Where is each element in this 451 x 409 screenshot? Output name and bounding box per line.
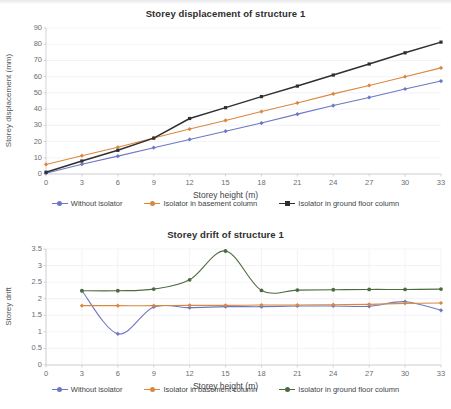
data-point-marker: [295, 288, 299, 292]
data-point-marker: [188, 127, 192, 131]
data-point-marker: [80, 304, 84, 308]
legend-item-0[interactable]: Without isolator: [52, 199, 123, 208]
x-tick-label: 15: [214, 369, 238, 378]
x-tick-label: 9: [142, 369, 166, 378]
x-tick-label: 30: [393, 178, 417, 187]
y-tick-label: 40: [16, 104, 42, 113]
x-tick-label: 18: [249, 178, 273, 187]
data-point-marker: [188, 137, 192, 141]
data-point-marker: [295, 112, 299, 116]
legend-item-1[interactable]: Isolator in basement column: [144, 199, 257, 208]
data-point-marker: [439, 287, 443, 291]
data-point-marker: [44, 162, 48, 166]
data-point-marker: [80, 289, 84, 293]
data-point-marker: [403, 288, 407, 292]
x-tick-label: 27: [357, 369, 381, 378]
x-tick-label: 30: [393, 369, 417, 378]
y-tick-label: 3.5: [16, 244, 42, 253]
data-point-marker: [367, 288, 371, 292]
x-tick-label: 6: [106, 178, 130, 187]
x-tick-label: 18: [249, 369, 273, 378]
displacement-plot-svg: [0, 22, 451, 192]
data-point-marker: [260, 289, 264, 293]
y-tick-label: 2.5: [16, 277, 42, 286]
data-point-marker: [332, 73, 335, 76]
data-point-marker: [439, 66, 443, 70]
x-tick-label: 33: [429, 178, 451, 187]
x-tick-label: 9: [142, 178, 166, 187]
legend-swatch-icon: [52, 200, 68, 207]
data-point-marker: [331, 103, 335, 107]
y-tick-label: 1: [16, 327, 42, 336]
data-point-marker: [80, 154, 84, 158]
x-tick-label: 12: [178, 178, 202, 187]
legend-label: Without isolator: [71, 385, 123, 394]
storey-drift-chart: Storey drift of structure 1 Storey drift…: [0, 225, 451, 409]
figure-page: Storey displacement of structure 1 Store…: [0, 0, 451, 409]
data-point-marker: [152, 146, 156, 150]
data-point-marker: [439, 308, 443, 312]
data-point-marker: [439, 79, 443, 83]
displacement-chart-title: Storey displacement of structure 1: [0, 4, 451, 22]
legend-label: Isolator in ground floor column: [298, 199, 399, 208]
y-tick-label: 10: [16, 153, 42, 162]
y-tick-label: 2: [16, 294, 42, 303]
legend-item-1[interactable]: Isolator in basement column: [144, 385, 257, 394]
data-point-marker: [368, 62, 371, 65]
data-point-marker: [223, 118, 227, 122]
y-tick-label: 1.5: [16, 310, 42, 319]
data-point-marker: [331, 288, 335, 292]
data-point-marker: [224, 249, 228, 253]
data-point-marker: [116, 149, 119, 152]
x-tick-label: 3: [70, 369, 94, 378]
legend-label: Isolator in ground floor column: [298, 385, 399, 394]
storey-displacement-chart: Storey displacement of structure 1 Store…: [0, 4, 451, 222]
data-point-marker: [403, 75, 407, 79]
legend-swatch-icon: [144, 200, 160, 207]
x-tick-label: 24: [321, 369, 345, 378]
data-point-marker: [331, 92, 335, 96]
y-tick-label: 90: [16, 23, 42, 32]
x-tick-label: 6: [106, 369, 130, 378]
data-point-marker: [44, 171, 47, 174]
data-point-marker: [296, 84, 299, 87]
y-tick-label: 70: [16, 55, 42, 64]
legend-label: Isolator in basement column: [163, 385, 257, 394]
x-tick-label: 15: [214, 178, 238, 187]
data-point-marker: [260, 95, 263, 98]
y-tick-label: 50: [16, 88, 42, 97]
y-tick-label: 0: [16, 169, 42, 178]
data-point-marker: [439, 41, 442, 44]
x-tick-label: 33: [429, 369, 451, 378]
data-point-marker: [295, 101, 299, 105]
y-tick-label: 80: [16, 39, 42, 48]
drift-legend: Without isolatorIsolator in basement col…: [0, 385, 451, 394]
data-point-marker: [188, 117, 191, 120]
data-point-marker: [116, 304, 120, 308]
x-tick-label: 27: [357, 178, 381, 187]
displacement-legend: Without isolatorIsolator in basement col…: [0, 199, 451, 208]
data-point-marker: [223, 129, 227, 133]
data-point-marker: [367, 83, 371, 87]
legend-item-0[interactable]: Without isolator: [52, 385, 123, 394]
y-tick-label: 0: [16, 360, 42, 369]
legend-item-2[interactable]: Isolator in ground floor column: [279, 199, 399, 208]
drift-plot-svg: [0, 243, 451, 383]
legend-item-2[interactable]: Isolator in ground floor column: [279, 385, 399, 394]
y-tick-label: 60: [16, 72, 42, 81]
data-point-marker: [188, 303, 192, 307]
x-tick-label: 0: [34, 369, 58, 378]
drift-chart-title: Storey drift of structure 1: [0, 225, 451, 243]
legend-swatch-icon: [279, 386, 295, 393]
legend-label: Without isolator: [71, 199, 123, 208]
y-tick-label: 0.5: [16, 343, 42, 352]
data-point-marker: [152, 137, 155, 140]
data-point-marker: [259, 121, 263, 125]
data-point-marker: [80, 162, 84, 166]
y-tick-label: 3: [16, 261, 42, 270]
data-point-marker: [403, 51, 406, 54]
legend-swatch-icon: [279, 200, 295, 207]
legend-swatch-icon: [52, 386, 68, 393]
data-point-marker: [188, 278, 192, 282]
x-tick-label: 0: [34, 178, 58, 187]
